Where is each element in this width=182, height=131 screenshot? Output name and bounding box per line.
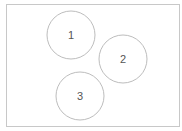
circle-node-3: 3 (56, 72, 104, 120)
circle-node-1: 1 (47, 11, 95, 59)
diagram-canvas: 1 2 3 (0, 0, 182, 131)
circle-node-2: 2 (99, 35, 147, 83)
circle-3-label: 3 (77, 90, 83, 102)
circle-2-label: 2 (120, 53, 126, 65)
circle-1-label: 1 (68, 29, 74, 41)
